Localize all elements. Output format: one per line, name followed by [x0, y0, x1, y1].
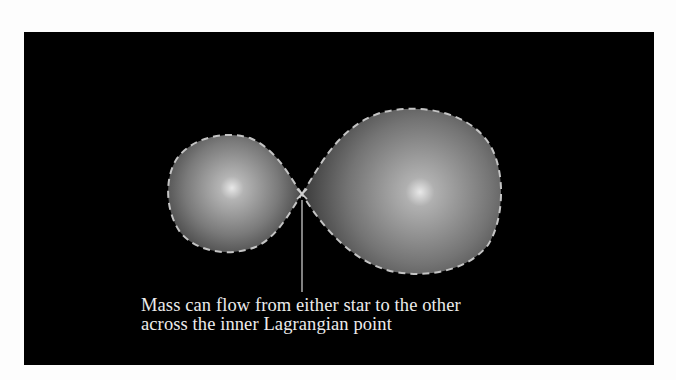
caption-line-1: Mass can flow from either star to the ot… — [141, 296, 461, 315]
caption: Mass can flow from either star to the ot… — [141, 296, 461, 334]
large-star-lobe — [302, 109, 501, 274]
caption-line-2: across the inner Lagrangian point — [141, 315, 461, 334]
small-star-lobe — [168, 135, 302, 252]
